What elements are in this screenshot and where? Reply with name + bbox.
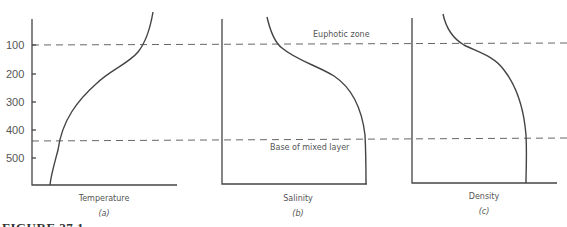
- panel-c-title: Density: [469, 192, 500, 201]
- euphotic-zone-line: [32, 43, 567, 45]
- ocean-profile-diagram: 100 200 300 400 500 Euphotic zone Base o…: [0, 0, 567, 227]
- y-tick-300: 300: [6, 96, 24, 108]
- y-tick-200: 200: [6, 68, 24, 80]
- y-tick-500: 500: [6, 152, 24, 164]
- y-tick-400: 400: [6, 124, 24, 136]
- panel-salinity: Salinity (b): [222, 17, 367, 218]
- panel-a-title: Temperature: [78, 194, 130, 203]
- density-curve: [443, 14, 526, 183]
- panel-density: Density (c): [412, 14, 557, 216]
- panel-b-title: Salinity: [283, 194, 313, 203]
- salinity-curve: [267, 17, 366, 184]
- figure-caption: FIGURE 27.1: [2, 220, 84, 227]
- panel-c-axes: [412, 18, 557, 183]
- panel-b-tag: (b): [292, 209, 303, 218]
- temperature-curve: [50, 12, 153, 185]
- panel-c-tag: (c): [479, 207, 490, 216]
- y-tick-100: 100: [6, 39, 24, 51]
- mixed-layer-base-label: Base of mixed layer: [270, 143, 350, 152]
- euphotic-zone-label: Euphotic zone: [313, 30, 370, 39]
- panel-a-tag: (a): [98, 209, 109, 218]
- mixed-layer-base-line: [32, 138, 567, 141]
- panel-a-axes: [32, 19, 177, 185]
- panel-temperature: Temperature (a): [32, 12, 177, 218]
